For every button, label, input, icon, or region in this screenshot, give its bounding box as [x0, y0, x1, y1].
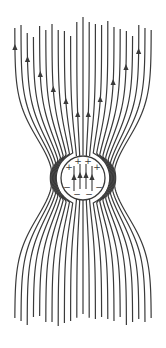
arrow-up-icon	[25, 56, 30, 62]
positive-charge-icon: +	[84, 156, 92, 166]
field-line	[90, 24, 96, 156]
arrow-up-icon	[123, 64, 128, 70]
field-lines-diagram: ++++−−−−	[0, 0, 166, 348]
negative-charge-icon: −	[85, 189, 93, 199]
field-line	[113, 28, 145, 322]
negative-charge-icon: −	[95, 182, 103, 192]
field-line	[103, 29, 120, 317]
arrow-up-icon	[111, 79, 116, 85]
field-line	[21, 25, 53, 321]
field-line	[71, 36, 77, 156]
negative-charge-icon: −	[63, 182, 71, 192]
arrow-up-icon	[12, 44, 17, 50]
arrow-up-icon	[98, 96, 103, 102]
arrow-up-icon	[51, 86, 56, 92]
diagram-canvas: ++++−−−− Field lines around a conducting…	[0, 0, 166, 348]
field-line	[71, 199, 77, 321]
positive-charge-icon: +	[65, 162, 73, 172]
field-line	[77, 22, 80, 156]
arrow-up-icon	[75, 111, 80, 117]
field-line	[77, 200, 80, 318]
field-line	[86, 200, 89, 318]
arrow-up-icon	[63, 98, 68, 104]
arrow-up-icon	[86, 111, 91, 117]
negative-charge-icon: −	[73, 189, 81, 199]
arrow-up-icon	[38, 71, 43, 77]
field-line	[90, 199, 96, 319]
positive-charge-icon: +	[93, 162, 101, 172]
arrow-up-icon	[136, 48, 141, 54]
positive-charge-icon: +	[74, 156, 82, 166]
field-line	[86, 22, 89, 156]
